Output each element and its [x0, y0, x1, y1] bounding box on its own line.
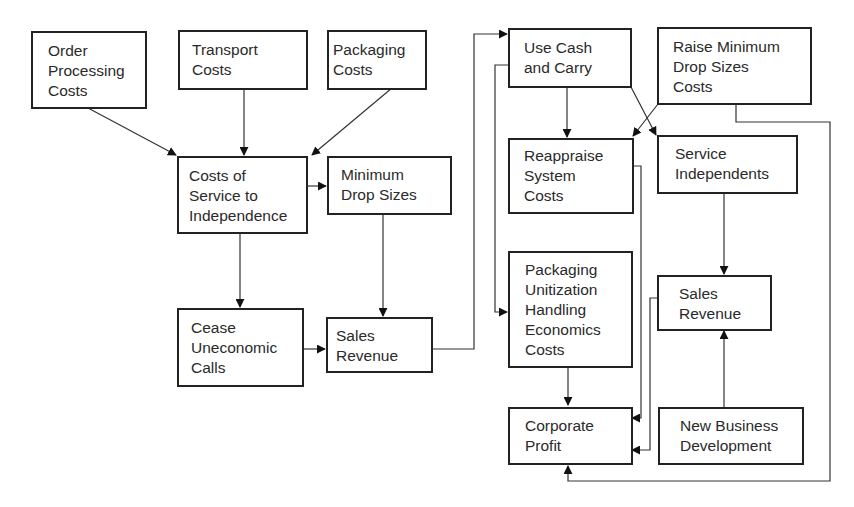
node-sales-revenue-left: Sales Revenue	[326, 317, 433, 373]
edge-salesright-to-profit	[632, 298, 658, 450]
diagram-canvas: Order Processing Costs Transport Costs P…	[0, 0, 854, 507]
node-label: Order Processing Costs	[48, 41, 125, 101]
node-order-processing-costs: Order Processing Costs	[31, 31, 147, 109]
node-label: Raise Minimum Drop Sizes Costs	[673, 37, 780, 97]
node-costs-of-service: Costs of Service to Independence	[177, 156, 308, 234]
node-label: Use Cash and Carry	[524, 38, 592, 78]
node-use-cash-and-carry: Use Cash and Carry	[508, 28, 632, 88]
edge-cashcarry-to-packunit	[495, 65, 509, 312]
node-label: Costs of Service to Independence	[189, 166, 287, 226]
node-label: Corporate Profit	[525, 416, 594, 456]
node-label: Reappraise System Costs	[524, 146, 603, 206]
node-reappraise-system-costs: Reappraise System Costs	[508, 138, 634, 214]
node-sales-revenue-right: Sales Revenue	[657, 275, 772, 331]
node-label: New Business Development	[680, 416, 778, 456]
node-minimum-drop-sizes: Minimum Drop Sizes	[327, 156, 452, 215]
node-label: Transport Costs	[192, 40, 258, 80]
node-label: Sales Revenue	[336, 326, 398, 366]
node-new-business-development: New Business Development	[658, 407, 804, 465]
node-label: Service Independents	[675, 144, 769, 184]
node-label: Cease Uneconomic Calls	[191, 318, 277, 378]
node-label: Minimum Drop Sizes	[341, 165, 417, 205]
node-transport-costs: Transport Costs	[178, 30, 308, 90]
node-service-independents: Service Independents	[657, 135, 798, 194]
edge-order-to-costs	[88, 108, 176, 155]
node-raise-minimum-drop-sizes: Raise Minimum Drop Sizes Costs	[657, 27, 812, 105]
node-label: Sales Revenue	[679, 284, 741, 324]
node-cease-uneconomic-calls: Cease Uneconomic Calls	[177, 308, 304, 387]
node-packaging-unitization: Packaging Unitization Handling Economics…	[508, 251, 633, 368]
node-label: Packaging Costs	[333, 40, 405, 80]
node-label: Packaging Unitization Handling Economics…	[525, 260, 601, 360]
node-packaging-costs: Packaging Costs	[327, 30, 427, 90]
node-corporate-profit: Corporate Profit	[508, 407, 633, 465]
edge-packaging-to-costs	[312, 88, 392, 155]
